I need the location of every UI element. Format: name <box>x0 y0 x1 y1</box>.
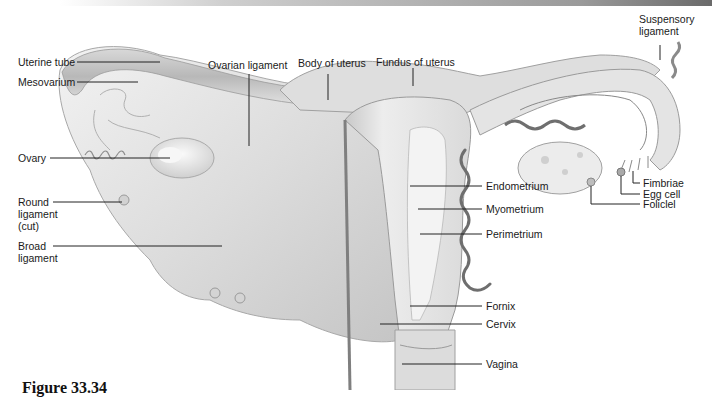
ligament-knob <box>235 293 245 303</box>
label-uterine-tube: Uterine tube <box>18 56 75 68</box>
follicle-small <box>541 156 549 164</box>
label-ovarian-ligament: Ovarian ligament <box>208 59 287 71</box>
label-round-ligament-line2: ligament <box>18 208 58 220</box>
follicle-small <box>577 152 583 158</box>
ovary-highlight <box>158 147 182 163</box>
label-follicle: Foliclel <box>643 198 676 210</box>
label-endometrium: Endometrium <box>486 180 548 192</box>
perimetrium-vessels <box>461 150 490 290</box>
figure-caption: Figure 33.34 <box>22 379 107 397</box>
follicle <box>587 178 595 186</box>
label-round-ligament-line1: Round <box>18 196 49 208</box>
label-mesovarium: Mesovarium <box>18 76 75 88</box>
label-broad-ligament-line2: ligament <box>18 252 58 264</box>
round-ligament-stump <box>119 195 129 205</box>
egg-cell-shape <box>617 168 625 176</box>
label-body-of-uterus: Body of uterus <box>298 57 366 69</box>
suspensory-ligament-shape <box>672 42 680 78</box>
label-cervix: Cervix <box>486 318 516 330</box>
label-fornix: Fornix <box>486 300 515 312</box>
follicle-small <box>562 169 568 175</box>
tube-vessels <box>505 121 585 129</box>
label-suspensory-ligament-line2: ligament <box>639 25 679 37</box>
vagina-shape <box>395 330 455 390</box>
label-broad-ligament-line1: Broad <box>18 240 46 252</box>
label-ovary: Ovary <box>18 152 46 164</box>
label-vagina: Vagina <box>486 358 518 370</box>
label-fundus-of-uterus: Fundus of uterus <box>376 56 455 68</box>
right-fimbriae <box>621 156 648 172</box>
label-myometrium: Myometrium <box>486 203 544 215</box>
label-suspensory-ligament-line1: Suspensory <box>639 13 694 25</box>
ligament-knob <box>210 288 220 298</box>
label-perimetrium: Perimetrium <box>486 228 543 240</box>
label-round-ligament-line3: (cut) <box>18 220 39 232</box>
